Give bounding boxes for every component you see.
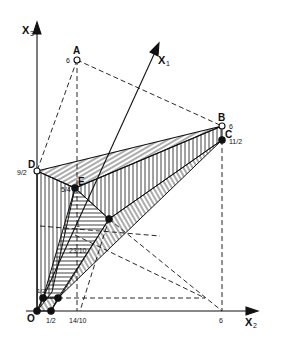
label-D: D [28, 159, 35, 170]
vertex-half [48, 308, 54, 314]
x3-axis-label: X [22, 24, 30, 36]
tick-six: 6 [219, 317, 223, 324]
x2-axis-sub: 2 [253, 322, 257, 329]
tick-half: 1/2 [46, 317, 56, 324]
x2-axis-label: X [245, 316, 253, 328]
label-O: O [27, 313, 35, 324]
value-C: 11/2 [229, 138, 242, 145]
tick-23-10: 23/10 [69, 247, 87, 254]
label-E: E [78, 176, 85, 187]
vertex-low-left [40, 295, 46, 301]
label-B: B [218, 112, 225, 123]
tick-14-10: 14/10 [69, 317, 87, 324]
shaded-faces [37, 126, 222, 311]
x1-axis-label: X [158, 54, 166, 66]
vertex-A [74, 57, 80, 63]
x3-axis-sub: 3 [30, 30, 34, 37]
polytope-diagram: X 3 X 1 X 2 A 6 B 6 C 11/2 D 9/2 E 5/4 O… [0, 0, 286, 347]
tick-one: 1 [76, 221, 80, 228]
vertex-mid [106, 216, 112, 222]
x1-axis-sub: 1 [166, 60, 170, 67]
value-A: 6 [66, 57, 70, 64]
value-E: 5/4 [61, 186, 71, 193]
label-A: A [73, 45, 80, 56]
tick-half-x3: 1/2 [37, 288, 46, 294]
value-D: 9/2 [17, 169, 27, 176]
vertex-low-right [55, 295, 61, 301]
